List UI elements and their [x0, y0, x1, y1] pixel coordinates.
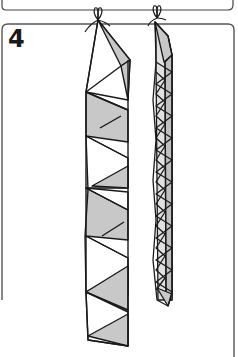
knot-icon [148, 6, 166, 26]
previous-panel-frame [2, 0, 233, 10]
step-number: 4 [8, 27, 25, 51]
illustration-panel: 4 [0, 0, 238, 357]
folding-diagram [0, 0, 238, 357]
narrow-strand [153, 22, 172, 306]
wide-strand [85, 20, 130, 346]
